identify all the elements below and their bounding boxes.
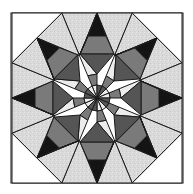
quilt-block-figure — [0, 0, 193, 194]
star-pattern — [12, 13, 182, 183]
